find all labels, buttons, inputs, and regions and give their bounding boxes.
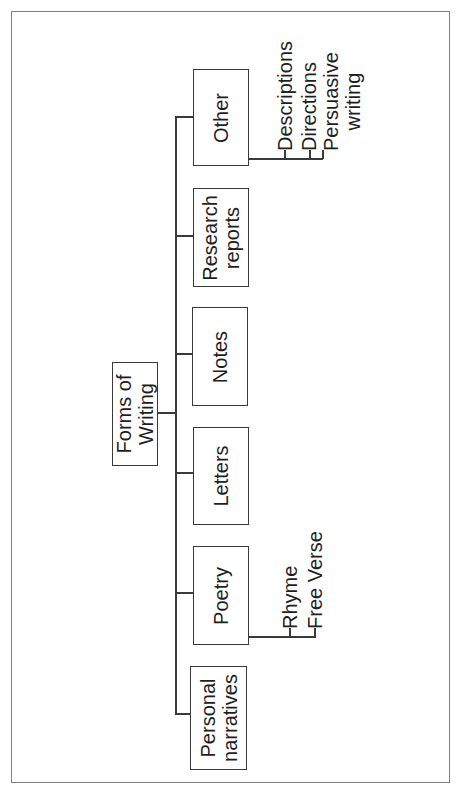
subitem-descriptions-label: Descriptions <box>274 41 296 151</box>
cropped-caption <box>0 0 457 4</box>
connector-poetry <box>175 592 193 594</box>
node-letters-label: Letters <box>210 445 232 506</box>
root-label-line-2: Writing <box>135 375 157 454</box>
subitem-directions: Directions <box>298 62 320 151</box>
bracket-other-horizontal <box>249 158 323 160</box>
connector-personal-narratives <box>175 713 191 715</box>
subitem-rhyme: Rhyme <box>279 566 301 629</box>
node-letters: Letters <box>193 427 249 525</box>
node-other: Other <box>193 69 249 166</box>
tick-descriptions <box>284 150 286 159</box>
node-notes: Notes <box>192 307 248 406</box>
connector-letters <box>175 472 193 474</box>
node-personal-narratives-label: Personal narratives <box>197 674 241 762</box>
tick-directions <box>309 150 311 159</box>
node-research-label-line-1: Research <box>199 195 221 281</box>
node-poetry-label: Poetry <box>210 567 232 625</box>
subitem-persuasive-writing: Persuasive writing <box>320 52 364 151</box>
subitem-rhyme-label: Rhyme <box>279 566 301 629</box>
tick-rhyme <box>289 628 291 637</box>
subitem-persuasive-line-2: writing <box>342 52 364 151</box>
node-notes-label: Notes <box>209 330 231 382</box>
subitem-free-verse-label: Free Verse <box>304 531 326 629</box>
tick-persuasive <box>322 150 324 159</box>
root-connector <box>157 412 176 414</box>
node-letters-label-line: Letters <box>210 445 232 506</box>
subitem-persuasive-line-1: Persuasive <box>320 52 342 151</box>
subitem-descriptions: Descriptions <box>274 41 296 151</box>
connector-research-reports <box>175 235 193 237</box>
root-label-line-1: Forms of <box>113 375 135 454</box>
node-notes-label-line: Notes <box>209 330 231 382</box>
node-personal-label-line-2: narratives <box>219 674 241 762</box>
node-other-label: Other <box>210 92 232 142</box>
node-poetry-label-line: Poetry <box>210 567 232 625</box>
subitem-free-verse: Free Verse <box>304 531 326 629</box>
node-poetry: Poetry <box>193 546 249 645</box>
node-personal-label-line-1: Personal <box>197 674 219 762</box>
root-node-label: Forms of Writing <box>113 375 157 454</box>
spine-line <box>175 116 177 714</box>
node-research-reports-label: Research reports <box>199 195 243 281</box>
connector-notes <box>175 353 192 355</box>
node-other-label-line: Other <box>210 92 232 142</box>
node-personal-narratives: Personal narratives <box>190 666 247 770</box>
bracket-poetry-horizontal <box>249 636 316 638</box>
root-node-forms-of-writing: Forms of Writing <box>112 362 158 466</box>
subitem-directions-label: Directions <box>298 62 320 151</box>
node-research-label-line-2: reports <box>221 195 243 281</box>
node-research-reports: Research reports <box>193 188 249 287</box>
connector-other <box>175 116 193 118</box>
tick-free-verse <box>314 628 316 637</box>
